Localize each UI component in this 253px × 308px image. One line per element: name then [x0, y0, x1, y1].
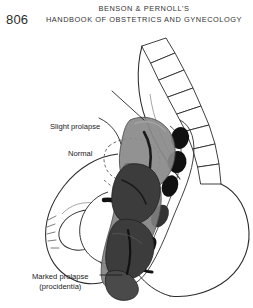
figure-uterine-prolapse: Slight prolapse Normal Marked prolapse (… — [0, 34, 253, 308]
coccyx-segment — [198, 164, 221, 184]
label-marked-prolapse-line-1: Marked prolapse — [32, 272, 89, 281]
running-head: BENSON & PERNOLL'S HANDBOOK OF OBSTETRIC… — [38, 4, 250, 25]
running-head-line-2: HANDBOOK OF OBSTETRICS AND GYNECOLOGY — [38, 15, 250, 26]
marked-prolapse-uterus — [101, 164, 161, 301]
label-marked-prolapse-line-2: (procidentia) — [32, 282, 89, 292]
page-header: 806 BENSON & PERNOLL'S HANDBOOK OF OBSTE… — [0, 0, 253, 34]
label-normal: Normal — [68, 149, 92, 159]
pelvis-sagittal-illustration — [0, 34, 253, 308]
page-number: 806 — [6, 12, 28, 27]
posterior-body-contour — [170, 184, 249, 297]
label-slight-prolapse: Slight prolapse — [50, 122, 100, 132]
running-head-line-1: BENSON & PERNOLL'S — [38, 4, 250, 15]
label-marked-prolapse: Marked prolapse (procidentia) — [32, 272, 89, 291]
leader-line-normal — [99, 118, 121, 144]
